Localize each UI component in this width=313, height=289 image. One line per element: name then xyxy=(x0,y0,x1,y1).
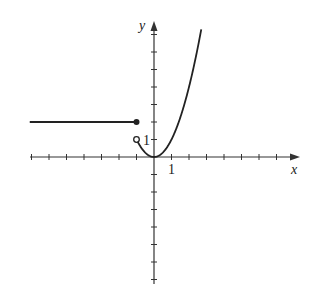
curves xyxy=(30,29,202,157)
function-graph: x y 1 1 xyxy=(0,0,313,289)
open-dot-icon xyxy=(134,137,140,143)
y-tick-label-1: 1 xyxy=(143,133,150,148)
y-axis-label: y xyxy=(137,18,146,33)
x-axis-arrow-icon xyxy=(290,154,300,161)
x-tick-label-1: 1 xyxy=(168,162,175,177)
x-axis-label: x xyxy=(290,162,298,177)
closed-dot-icon xyxy=(134,119,140,125)
axes xyxy=(30,21,300,284)
y-axis-arrow-icon xyxy=(151,21,158,31)
